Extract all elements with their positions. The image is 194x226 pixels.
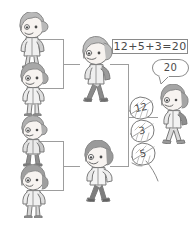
leaf-stem bbox=[144, 160, 162, 182]
child-6 bbox=[78, 140, 118, 202]
child-1 bbox=[10, 12, 54, 68]
child-5 bbox=[76, 36, 116, 102]
speech-bubble-text: 20 bbox=[152, 59, 189, 77]
child-7 bbox=[155, 84, 193, 144]
equation-box: 12+5+3=20 bbox=[112, 39, 188, 54]
illustration-canvas: 12 3 bbox=[0, 0, 194, 226]
child-4 bbox=[12, 164, 54, 218]
child-2 bbox=[12, 62, 54, 116]
child-3 bbox=[12, 115, 54, 167]
equation-text: 12+5+3=20 bbox=[113, 41, 186, 52]
speech-bubble: 20 bbox=[152, 59, 189, 77]
